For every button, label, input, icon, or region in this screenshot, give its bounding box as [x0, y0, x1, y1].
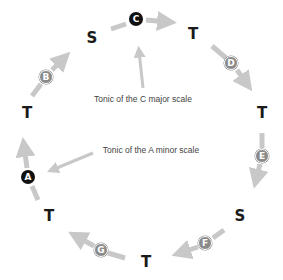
note-f: F: [198, 236, 212, 250]
arrow-s-to-f: [213, 230, 224, 238]
arrow-c-to-t: [146, 20, 168, 22]
step-label-t-g-a: T: [44, 209, 54, 224]
arrow-t-to-g: [108, 253, 125, 258]
pointer-a-minor: [52, 153, 93, 170]
step-label-t-c-d: T: [188, 27, 198, 42]
arrow-d-to-t: [237, 70, 247, 84]
note-e: E: [255, 149, 269, 163]
note-g: G: [94, 243, 108, 257]
arrow-t-to-d: [212, 46, 226, 58]
arrow-f-to-t: [180, 247, 198, 253]
arrow-s-to-c: [111, 24, 126, 29]
pointer-c-major: [139, 51, 143, 88]
step-label-t-d-e: T: [257, 106, 267, 121]
step-label-t-a-b: T: [22, 106, 32, 121]
step-label-t-f-g: T: [141, 255, 151, 270]
arrow-a-to-t: [24, 146, 27, 168]
arrow-e-to-s: [256, 164, 260, 180]
annotation-a-minor: Tonic of the A minor scale: [103, 145, 199, 155]
arrow-g-to-t: [76, 236, 94, 246]
step-label-s-b-c: S: [87, 31, 98, 46]
note-d: D: [224, 56, 238, 70]
step-label-s-e-f: S: [235, 209, 246, 224]
note-c: C: [129, 12, 143, 26]
note-a: A: [21, 170, 35, 184]
arrow-b-to-s: [52, 58, 64, 70]
arrow-t-to-b: [32, 84, 41, 96]
arrow-t-to-a: [32, 186, 38, 200]
note-b: B: [39, 70, 53, 84]
annotation-c-major: Tonic of the C major scale: [94, 94, 192, 104]
arrows-layer: [0, 0, 283, 280]
